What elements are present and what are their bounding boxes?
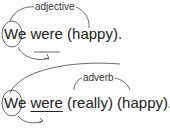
sentence-2: We were (really) (happy). (4, 95, 170, 111)
sentence-1: We were (happy). (4, 26, 122, 42)
subject-word-1: We (4, 25, 26, 42)
arc-subject-1 (18, 47, 49, 60)
complement-1: (happy). (67, 25, 122, 42)
arc-to-label-1 (10, 7, 34, 21)
verb-word-1: were (30, 25, 63, 42)
label-adjective: adjective (34, 2, 75, 12)
label-adverb: adverb (82, 73, 115, 83)
verb-word-2: were (30, 94, 63, 111)
arc-subject-2 (18, 116, 42, 123)
arc-to-happy-2 (114, 78, 130, 90)
complement-2: (happy). (117, 94, 170, 111)
subject-word-2: We (4, 94, 26, 111)
modifier-2: (really) (67, 94, 113, 111)
arc-to-label-2 (74, 78, 82, 90)
